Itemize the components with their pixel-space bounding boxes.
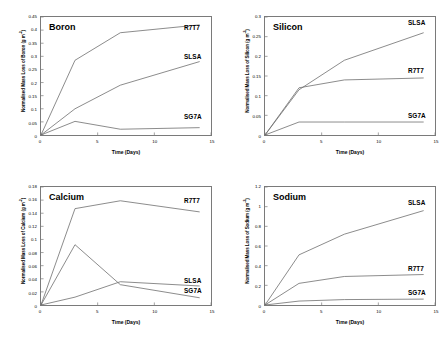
x-tick-label: 0 bbox=[39, 309, 41, 314]
y-tick-label: 0.05 bbox=[24, 120, 37, 125]
y-tick-label: 0.1 bbox=[24, 107, 37, 112]
y-tick-label: 1 bbox=[248, 204, 261, 209]
x-tick-label: 10 bbox=[376, 309, 381, 314]
x-tick-label: 5 bbox=[96, 309, 98, 314]
y-tick-label: 0.1 bbox=[248, 94, 261, 99]
x-tick-label: 0 bbox=[263, 139, 265, 144]
series-line-r7t7 bbox=[41, 201, 200, 305]
y-tick-label: 0.06 bbox=[24, 264, 37, 269]
x-tick-label: 15 bbox=[210, 309, 215, 314]
y-tick-label: 0.4 bbox=[24, 27, 37, 32]
y-axis-title-exponent: -2 bbox=[243, 200, 247, 203]
series-line-r7t7 bbox=[265, 78, 424, 135]
y-tick-label: 0 bbox=[24, 134, 37, 139]
panel-title-calcium: Calcium bbox=[49, 192, 84, 202]
series-label-slsa: SLSA bbox=[408, 199, 425, 206]
series-label-r7t7: R7T7 bbox=[184, 197, 200, 204]
y-tick-label: 0.18 bbox=[24, 184, 37, 189]
y-tick-label: 0.08 bbox=[24, 250, 37, 255]
series-label-slsa: SLSA bbox=[184, 277, 201, 284]
series-label-r7t7: R7T7 bbox=[184, 24, 200, 31]
y-tick-label: 0.04 bbox=[24, 277, 37, 282]
panel-title-sodium: Sodium bbox=[273, 192, 306, 202]
y-tick-label: 0.8 bbox=[248, 224, 261, 229]
panel-calcium: Normalised Mass Loss of Calcium (g m-2)C… bbox=[0, 170, 224, 340]
x-axis-title: Time (Days) bbox=[112, 149, 140, 155]
y-axis-title-exponent: -2 bbox=[243, 31, 247, 34]
series-line-r7t7 bbox=[41, 25, 200, 135]
y-tick-label: 0.35 bbox=[24, 40, 37, 45]
series-line-slsa bbox=[265, 211, 424, 305]
series-line-slsa bbox=[265, 33, 424, 135]
y-tick-label: 0.2 bbox=[248, 54, 261, 59]
y-tick-label: 0 bbox=[248, 134, 261, 139]
series-label-sg7a: SG7A bbox=[184, 113, 202, 120]
x-tick-label: 15 bbox=[210, 139, 215, 144]
series-label-sg7a: SG7A bbox=[408, 112, 426, 119]
panel-sodium: Normalised Mass Loss of Sodium (g m-2)So… bbox=[224, 170, 448, 340]
y-tick-label: 0.2 bbox=[248, 284, 261, 289]
y-tick-label: 0.02 bbox=[24, 290, 37, 295]
y-tick-label: 0.12 bbox=[24, 224, 37, 229]
y-tick-label: 0.3 bbox=[24, 54, 37, 59]
series-label-sg7a: SG7A bbox=[184, 287, 202, 294]
series-label-sg7a: SG7A bbox=[408, 289, 426, 296]
y-tick-label: 0.25 bbox=[248, 34, 261, 39]
panel-boron: Normalised Mass Loss of Boron (g m-2)Bor… bbox=[0, 0, 224, 170]
y-tick-label: 0.25 bbox=[24, 67, 37, 72]
y-tick-label: 0 bbox=[24, 304, 37, 309]
x-axis-title: Time (Days) bbox=[112, 319, 140, 325]
y-tick-label: 0.4 bbox=[248, 264, 261, 269]
x-tick-label: 5 bbox=[320, 309, 322, 314]
y-tick-label: 0.3 bbox=[248, 14, 261, 19]
x-tick-label: 0 bbox=[39, 139, 41, 144]
x-tick-label: 10 bbox=[376, 139, 381, 144]
y-axis-title-close: ) bbox=[245, 198, 250, 199]
series-label-r7t7: R7T7 bbox=[408, 265, 424, 272]
y-tick-label: 0.6 bbox=[248, 244, 261, 249]
y-tick-label: 0.45 bbox=[24, 14, 37, 19]
y-tick-label: 0.14 bbox=[24, 210, 37, 215]
x-tick-label: 10 bbox=[152, 309, 157, 314]
y-tick-label: 0.15 bbox=[248, 74, 261, 79]
panel-title-boron: Boron bbox=[49, 22, 76, 32]
y-axis-title-exponent: -2 bbox=[19, 199, 23, 202]
x-tick-label: 15 bbox=[434, 309, 439, 314]
series-label-slsa: SLSA bbox=[408, 19, 425, 26]
series-line-slsa bbox=[41, 62, 200, 135]
y-axis-title: Normalised Mass Loss of Sodium (g m-2) bbox=[238, 166, 252, 316]
y-tick-label: 0.2 bbox=[24, 80, 37, 85]
x-axis-title: Time (Days) bbox=[336, 319, 364, 325]
y-tick-label: 1.2 bbox=[248, 184, 261, 189]
x-tick-label: 0 bbox=[263, 309, 265, 314]
y-tick-label: 0.16 bbox=[24, 197, 37, 202]
series-line-sg7a bbox=[265, 299, 424, 305]
series-line-slsa bbox=[41, 282, 200, 305]
y-axis-title-text: Normalised Mass Loss of Boron (g m bbox=[21, 34, 26, 112]
y-axis-title-close: ) bbox=[245, 29, 250, 30]
x-tick-label: 15 bbox=[434, 139, 439, 144]
panel-title-silicon: Silicon bbox=[273, 22, 303, 32]
series-label-r7t7: R7T7 bbox=[408, 67, 424, 74]
y-tick-label: 0.05 bbox=[248, 114, 261, 119]
y-tick-label: 0 bbox=[248, 304, 261, 309]
multi-panel-figure: Normalised Mass Loss of Boron (g m-2)Bor… bbox=[0, 0, 448, 341]
series-line-sg7a bbox=[41, 121, 200, 135]
x-axis-title: Time (Days) bbox=[336, 149, 364, 155]
x-tick-label: 5 bbox=[96, 139, 98, 144]
series-line-r7t7 bbox=[265, 275, 424, 305]
series-line-sg7a bbox=[265, 122, 424, 135]
x-tick-label: 5 bbox=[320, 139, 322, 144]
y-tick-label: 0.1 bbox=[24, 237, 37, 242]
series-line-sg7a bbox=[41, 245, 200, 305]
x-tick-label: 10 bbox=[152, 139, 157, 144]
panel-silicon: Normalised Mass Loss of Silicon (g m-2)S… bbox=[224, 0, 448, 170]
series-label-slsa: SLSA bbox=[184, 53, 201, 60]
y-tick-label: 0.15 bbox=[24, 94, 37, 99]
y-axis-title-exponent: -2 bbox=[19, 31, 23, 34]
